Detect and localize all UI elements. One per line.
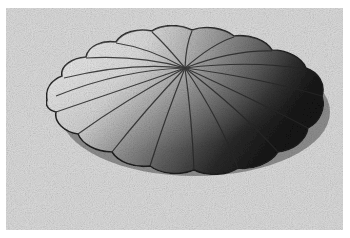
illustration-frame bbox=[0, 0, 350, 238]
left-border bbox=[0, 0, 6, 238]
dome-illustration bbox=[0, 0, 350, 238]
top-border bbox=[0, 0, 350, 8]
right-border bbox=[343, 0, 350, 238]
bottom-border bbox=[0, 230, 350, 238]
